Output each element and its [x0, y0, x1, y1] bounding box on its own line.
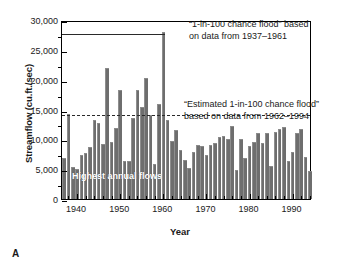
x-axis-minor-tick: [112, 196, 113, 199]
y-axis-tick-labels: 05,00010,00015,00020,00025,00030,000: [0, 0, 58, 271]
x-axis-minor-tick: [86, 196, 87, 199]
annotation-1-line1: “1-in-100 chance flood” based: [189, 19, 309, 31]
bar: [235, 170, 239, 199]
bar: [218, 137, 222, 199]
panel-letter: A: [12, 248, 19, 259]
y-axis-minor-tick: [58, 67, 62, 68]
x-axis-tick-label: 1950: [99, 204, 139, 214]
bar: [93, 120, 97, 199]
bar: [265, 133, 269, 199]
bar: [222, 136, 226, 199]
x-axis-minor-tick: [301, 196, 302, 199]
y-axis-tick-label: 20,000: [14, 76, 58, 86]
bar: [299, 129, 303, 199]
series-label: Highest annual flows: [72, 171, 162, 181]
x-axis-minor-tick: [68, 196, 69, 199]
y-axis-major-tick: [62, 22, 67, 23]
bar: [248, 146, 252, 199]
y-axis-major-tick: [62, 171, 67, 172]
y-axis-minor-tick: [58, 126, 62, 127]
bar: [62, 158, 66, 199]
bar: [243, 158, 247, 199]
bar: [213, 143, 217, 199]
bar: [205, 155, 209, 199]
y-axis-major-tick: [62, 52, 67, 53]
y-axis-tick-label: 30,000: [14, 16, 58, 26]
bar: [291, 152, 295, 199]
bar: [136, 90, 140, 199]
y-axis-major-tick: [62, 141, 67, 142]
x-axis-minor-tick: [155, 196, 156, 199]
bar: [287, 161, 291, 199]
x-axis-minor-tick: [137, 196, 138, 199]
bar: [179, 150, 183, 199]
x-axis-minor-tick: [275, 196, 276, 199]
annotation-1-line2: on data from 1937–1961: [189, 31, 309, 43]
bar: [196, 145, 200, 199]
y-axis-tick-label: 25,000: [14, 46, 58, 56]
x-axis-major-tick: [77, 194, 78, 199]
bar: [192, 152, 196, 199]
bar: [282, 127, 286, 199]
bar: [174, 130, 178, 199]
bar: [230, 126, 234, 199]
x-axis-minor-tick: [258, 196, 259, 199]
bar: [149, 115, 153, 199]
annotation-1-in-100-flood: “1-in-100 chance flood” based on data fr…: [189, 19, 309, 42]
x-axis-tick-label: 1960: [142, 204, 182, 214]
annotation-estimated-1-in-100-flood: “Estimated 1-in-100 chance flood” based …: [184, 99, 319, 122]
y-axis-minor-tick: [58, 37, 62, 38]
y-axis-major-tick: [62, 112, 67, 113]
bar: [131, 118, 135, 199]
bar: [295, 133, 299, 199]
x-axis-minor-tick: [215, 196, 216, 199]
bar: [278, 129, 282, 199]
bar: [187, 168, 191, 199]
bar: [304, 157, 308, 199]
bar: [261, 143, 265, 199]
x-axis-minor-tick: [172, 196, 173, 199]
x-axis-major-tick: [206, 194, 207, 199]
x-axis-major-tick: [293, 194, 294, 199]
x-axis-minor-tick: [267, 196, 268, 199]
x-axis-major-tick: [120, 194, 121, 199]
bar: [118, 90, 122, 199]
x-axis-tick-label: 1970: [185, 204, 225, 214]
x-axis-minor-tick: [103, 196, 104, 199]
x-axis-minor-tick: [129, 196, 130, 199]
x-axis-minor-tick: [146, 196, 147, 199]
x-axis-minor-tick: [198, 196, 199, 199]
bar: [226, 139, 230, 199]
x-axis-minor-tick: [241, 196, 242, 199]
y-axis-minor-tick: [58, 186, 62, 187]
y-axis-minor-tick: [58, 156, 62, 157]
x-axis-minor-tick: [189, 196, 190, 199]
bar: [166, 120, 170, 199]
bar: [239, 139, 243, 199]
bar: [67, 114, 71, 199]
bar: [256, 133, 260, 199]
annotation-2-line1: “Estimated 1-in-100 chance flood”: [184, 99, 319, 111]
y-axis-tick-label: 0: [14, 195, 58, 205]
bar: [252, 142, 256, 199]
y-axis-minor-tick: [58, 97, 62, 98]
bar: [114, 128, 118, 199]
x-axis-major-tick: [250, 194, 251, 199]
bar: [140, 107, 144, 199]
x-axis-tick-label: 1940: [56, 204, 96, 214]
bar: [274, 132, 278, 199]
bar: [209, 145, 213, 199]
bar: [200, 146, 204, 199]
streamflow-figure: Streamflow (cu.ft./sec) 05,00010,00015,0…: [0, 0, 359, 271]
bar: [269, 166, 273, 199]
threshold-line-1937-1961: [62, 34, 165, 35]
y-axis-tick-label: 10,000: [14, 135, 58, 145]
x-axis-minor-tick: [94, 196, 95, 199]
x-axis-tick-label: 1980: [229, 204, 269, 214]
bar: [97, 123, 101, 199]
bar: [170, 141, 174, 199]
x-axis-minor-tick: [310, 196, 311, 199]
annotation-2-line2: based on data from 1962–1994: [184, 111, 319, 123]
x-axis-tick-label: 1990: [272, 204, 312, 214]
y-axis-tick-label: 5,000: [14, 165, 58, 175]
